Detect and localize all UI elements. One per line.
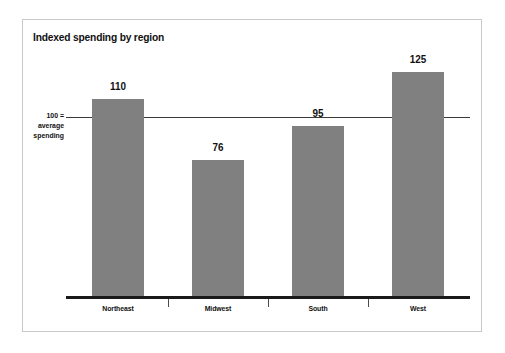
reference-label-line-2: average: [24, 121, 64, 131]
bar-value-label-south: 95: [291, 107, 345, 119]
category-label-midwest: Midwest: [181, 304, 255, 313]
bar-value-label-midwest: 76: [191, 141, 245, 153]
reference-label-line-1: 100 =: [24, 111, 64, 121]
bar-value-label-northeast: 110: [91, 80, 145, 92]
x-axis-tick-3: [368, 299, 369, 307]
bar-value-label-west: 125: [391, 53, 445, 65]
chart-figure: Indexed spending by region 100 = average…: [0, 0, 505, 353]
category-label-northeast: Northeast: [81, 304, 155, 313]
reference-line-label: 100 = average spending: [24, 111, 64, 141]
bar-west: [392, 72, 444, 297]
bar-midwest: [192, 160, 244, 297]
category-label-west: West: [381, 304, 455, 313]
x-axis-tick-1: [168, 299, 169, 307]
reference-label-line-3: spending: [24, 131, 64, 141]
x-axis-tick-2: [268, 299, 269, 307]
bar-south: [292, 126, 344, 297]
category-label-south: South: [281, 304, 355, 313]
bar-northeast: [92, 99, 144, 297]
chart-title: Indexed spending by region: [33, 31, 164, 43]
